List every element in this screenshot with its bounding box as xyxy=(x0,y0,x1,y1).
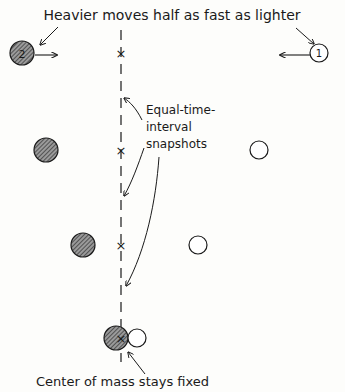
com-marker: × xyxy=(116,331,127,346)
com-marker: × xyxy=(116,238,127,253)
heavy-ball xyxy=(34,138,58,162)
momentum-diagram: Heavier moves half as fast as lighter 2 … xyxy=(0,0,345,392)
snapshot-pointer-2 xyxy=(124,148,144,196)
com-marker: × xyxy=(116,143,127,158)
title-pointer-light xyxy=(296,28,314,44)
snapshot-pointer-3 xyxy=(126,157,159,286)
light-ball xyxy=(128,329,146,347)
light-ball xyxy=(189,236,207,254)
snapshots-annotation: Equal-time- interval snapshots xyxy=(146,103,219,151)
title-pointer-heavy xyxy=(40,27,58,45)
light-ball xyxy=(250,141,268,159)
heavy-ball xyxy=(71,233,95,257)
heavy-ball-label: 2 xyxy=(19,48,26,61)
com-marker: × xyxy=(116,46,127,61)
snapshot-3: × xyxy=(71,233,207,257)
snapshot-1: 2 × 1 xyxy=(10,41,328,65)
com-annotation: Center of mass stays fixed xyxy=(36,374,209,389)
snapshot-pointer-1 xyxy=(124,98,142,120)
light-ball-label: 1 xyxy=(316,48,322,59)
com-pointer xyxy=(128,352,145,374)
diagram-canvas: Heavier moves half as fast as lighter 2 … xyxy=(0,0,345,392)
diagram-title: Heavier moves half as fast as lighter xyxy=(43,7,300,23)
snapshot-4: × xyxy=(104,326,146,350)
